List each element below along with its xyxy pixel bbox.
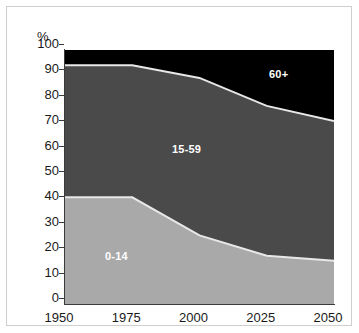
y-tick-row: 80 [7, 88, 59, 101]
plot-area [65, 50, 334, 304]
y-tick-row: 70 [7, 113, 59, 126]
y-tick-row: 40 [7, 189, 59, 202]
y-tick-label: 30 [17, 215, 59, 228]
x-axis-line [64, 304, 335, 305]
stacked-area-chart [65, 50, 334, 304]
y-tick-label: 70 [17, 113, 59, 126]
x-tick-label: 1950 [31, 310, 87, 325]
y-tick-label: 10 [17, 266, 59, 279]
y-tick-row: 50 [7, 164, 59, 177]
y-tick-mark [59, 69, 64, 70]
x-tick-label: 2025 [233, 310, 289, 325]
series-label-60-plus: 60+ [269, 68, 288, 80]
series-label-0-14: 0-14 [105, 250, 128, 262]
y-tick-mark [59, 196, 64, 197]
y-tick-mark [59, 298, 64, 299]
y-tick-mark [59, 44, 64, 45]
y-tick-row: 60 [7, 139, 59, 152]
y-tick-label: 100 [17, 37, 59, 50]
y-tick-mark [59, 222, 64, 223]
y-tick-row: 100 [7, 37, 59, 50]
y-tick-mark [59, 171, 64, 172]
y-tick-row: 30 [7, 215, 59, 228]
y-tick-mark [59, 95, 64, 96]
figure-frame: % 0102030405060708090100 195019752000202… [6, 6, 352, 326]
x-tick-label: 2050 [300, 310, 356, 325]
y-tick-row: 90 [7, 62, 59, 75]
y-tick-label: 0 [17, 291, 59, 304]
y-tick-label: 90 [17, 62, 59, 75]
y-tick-mark [59, 146, 64, 147]
chart-screenshot: % 0102030405060708090100 195019752000202… [0, 0, 359, 333]
y-tick-row: 10 [7, 266, 59, 279]
y-tick-label: 50 [17, 164, 59, 177]
x-tick-label: 1975 [98, 310, 154, 325]
y-tick-row: 20 [7, 240, 59, 253]
y-tick-mark [59, 273, 64, 274]
series-label-15-59: 15-59 [172, 143, 201, 155]
y-tick-row: 0 [7, 291, 59, 304]
y-tick-mark [59, 120, 64, 121]
y-tick-mark [59, 247, 64, 248]
x-tick-label: 2000 [166, 310, 222, 325]
y-tick-label: 40 [17, 189, 59, 202]
y-tick-label: 60 [17, 139, 59, 152]
y-tick-label: 80 [17, 88, 59, 101]
y-tick-label: 20 [17, 240, 59, 253]
